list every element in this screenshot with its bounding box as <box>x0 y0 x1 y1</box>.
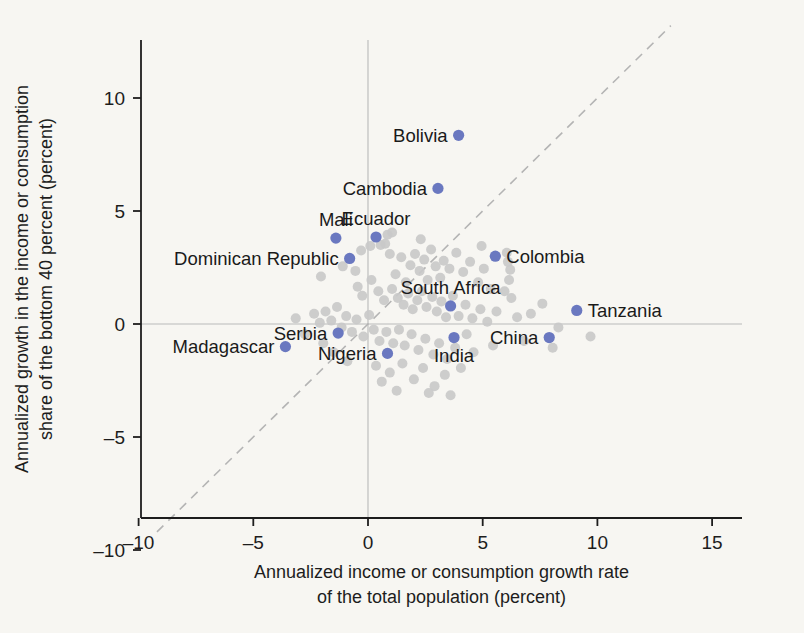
data-point <box>454 311 464 321</box>
data-point <box>388 338 398 348</box>
data-point <box>537 299 547 309</box>
data-point <box>460 300 470 310</box>
data-point <box>418 363 428 373</box>
data-point <box>385 368 395 378</box>
data-point <box>392 386 402 396</box>
data-point <box>366 275 376 285</box>
data-point <box>415 266 425 276</box>
data-point-label: China <box>490 327 539 348</box>
data-point <box>316 272 326 282</box>
x-axis-title-line2: of the total population (percent) <box>317 587 566 607</box>
data-point <box>512 312 522 322</box>
y-tick-label: 10 <box>104 88 125 109</box>
data-point <box>506 293 516 303</box>
data-point <box>409 374 419 384</box>
highlighted-data-point <box>445 300 456 311</box>
data-point <box>462 329 472 339</box>
data-point-label: Nigeria <box>318 343 377 364</box>
highlighted-data-point <box>382 348 393 359</box>
data-point <box>399 300 409 310</box>
highlighted-data-point <box>453 130 464 141</box>
data-point-label: Bolivia <box>393 125 448 146</box>
data-point <box>420 334 430 344</box>
data-point <box>394 325 404 335</box>
y-tick-label: 0 <box>114 314 125 335</box>
highlighted-data-point <box>571 305 582 316</box>
data-point <box>391 269 401 279</box>
highlighted-data-point <box>490 251 501 262</box>
data-point <box>405 260 415 270</box>
data-point <box>397 359 407 369</box>
data-point <box>424 388 434 398</box>
data-point-label: Mali <box>319 209 353 230</box>
data-point <box>421 302 431 312</box>
data-point <box>364 310 374 320</box>
y-tick-label: –10 <box>93 540 125 561</box>
data-point <box>369 325 379 335</box>
data-point <box>408 304 418 314</box>
data-point <box>358 331 368 341</box>
highlighted-data-point <box>448 332 459 343</box>
data-point <box>465 257 475 267</box>
data-point-label: South Africa <box>401 277 501 298</box>
data-point <box>444 264 454 274</box>
data-point <box>446 390 456 400</box>
x-tick-label: 10 <box>587 532 608 553</box>
data-point <box>441 312 451 322</box>
data-point <box>451 248 461 258</box>
y-tick-label: 5 <box>114 201 125 222</box>
data-point <box>356 246 366 256</box>
data-point <box>373 286 383 296</box>
data-point <box>387 284 397 294</box>
data-point <box>491 307 501 317</box>
data-point <box>440 370 450 380</box>
data-point <box>407 329 417 339</box>
data-point <box>586 331 596 341</box>
data-point <box>382 230 392 240</box>
data-point <box>365 241 375 251</box>
highlighted-data-point <box>333 327 344 338</box>
data-point <box>431 261 441 271</box>
data-point <box>341 311 351 321</box>
scatter-plot-svg: BoliviaCambodiaEcuadorMaliDominican Repu… <box>0 0 804 633</box>
highlighted-data-point <box>370 231 381 242</box>
x-tick-label: 5 <box>477 532 488 553</box>
highlighted-data-point <box>432 183 443 194</box>
data-point <box>553 322 563 332</box>
data-point <box>410 249 420 259</box>
data-point-label: India <box>434 345 475 366</box>
data-point <box>332 302 342 312</box>
data-point <box>350 266 360 276</box>
data-point <box>467 313 477 323</box>
x-tick-label: –5 <box>243 532 264 553</box>
scatter-plot-figure: BoliviaCambodiaEcuadorMaliDominican Repu… <box>0 0 804 633</box>
data-point <box>385 249 395 259</box>
data-point <box>381 327 391 337</box>
data-point <box>477 241 487 251</box>
data-point <box>357 291 367 301</box>
data-point <box>396 252 406 262</box>
data-point <box>526 309 536 319</box>
data-point <box>321 307 331 317</box>
data-point <box>548 343 558 353</box>
data-point <box>379 295 389 305</box>
highlighted-data-point <box>544 332 555 343</box>
data-point <box>458 267 468 277</box>
data-point <box>400 340 410 350</box>
data-point <box>347 327 357 337</box>
data-point <box>377 377 387 387</box>
y-axis-title-line1: Annualized growth in the income or consu… <box>12 85 32 473</box>
data-point-label: Colombia <box>506 246 585 267</box>
data-point <box>413 345 423 355</box>
data-point-label: Madagascar <box>173 336 275 357</box>
x-tick-label: 0 <box>363 532 374 553</box>
y-tick-label: –5 <box>104 427 125 448</box>
data-point <box>479 264 489 274</box>
x-axis-title-line1: Annualized income or consumption growth … <box>254 562 629 582</box>
y-axis-title-line2: share of the bottom 40 percent (percent) <box>36 118 56 440</box>
x-tick-label: –10 <box>123 532 155 553</box>
data-point-label: Cambodia <box>343 178 428 199</box>
data-point-label: Serbia <box>274 323 328 344</box>
data-point <box>504 275 514 285</box>
highlighted-data-point <box>330 233 341 244</box>
